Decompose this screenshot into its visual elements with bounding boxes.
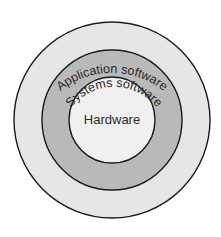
software-layers-diagram: Application software Systems software Ha… (0, 0, 221, 237)
hardware-label: Hardware (84, 112, 140, 127)
